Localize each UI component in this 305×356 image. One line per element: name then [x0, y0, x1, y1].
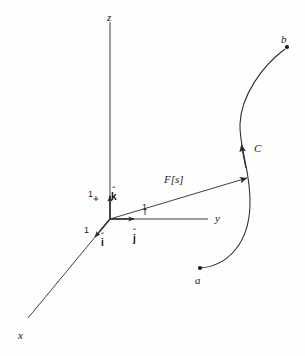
- j-hat-letter: j: [133, 233, 136, 244]
- point-a-dot: [198, 266, 202, 270]
- position-vector-label: F[s]: [164, 174, 184, 185]
- k-hat-letter: k: [111, 191, 117, 202]
- point-b-dot: [285, 45, 289, 49]
- x-axis-label: x: [18, 330, 23, 341]
- i-hat-magnitude-label: 1: [84, 226, 89, 235]
- point-b-label: b: [281, 34, 287, 45]
- point-a-label: a: [195, 275, 201, 286]
- vector-calculus-diagram: z y x ˆ k ˆ j ˆ i 1 1 1 F[s] C a b: [0, 0, 305, 356]
- j-hat-magnitude-label: 1: [142, 203, 147, 212]
- i-hat-letter: i: [101, 237, 104, 248]
- k-hat-magnitude-label: 1: [88, 190, 93, 199]
- canvas-background: [0, 0, 305, 356]
- k-hat-label: ˆ k: [111, 186, 117, 202]
- curve-C-label: C: [254, 143, 261, 154]
- diagram-canvas: [0, 0, 305, 356]
- y-axis-label: y: [215, 213, 220, 224]
- z-axis-label: z: [107, 12, 111, 23]
- i-hat-label: ˆ i: [101, 232, 104, 248]
- j-hat-label: ˆ j: [133, 228, 136, 244]
